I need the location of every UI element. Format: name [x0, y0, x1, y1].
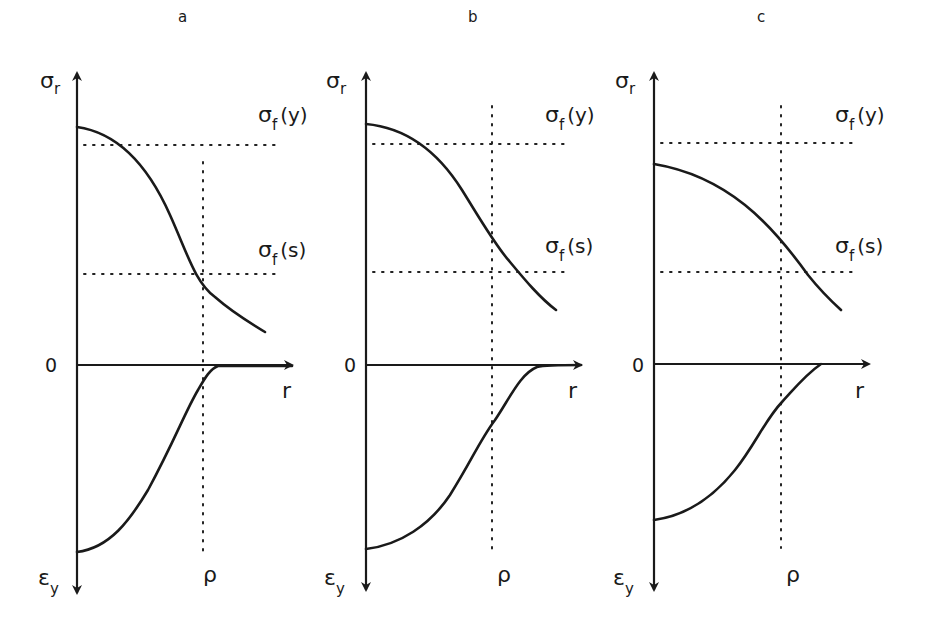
panel-a: a σr εy 0 r ρ σf(y) σf(s)	[38, 8, 308, 598]
sigma-r-label: σr	[40, 68, 61, 98]
sigma-r-curve	[77, 127, 265, 332]
panel-b: b σr εy 0 r ρ σf(y) σf(s)	[324, 8, 595, 598]
panel-letter: a	[178, 8, 187, 26]
rho-label: ρ	[203, 562, 217, 587]
panel-letter: c	[757, 8, 765, 26]
sigma-r-label: σr	[326, 68, 347, 98]
sigma-f-s-label: σf(s)	[258, 237, 306, 269]
r-axis-label: r	[282, 378, 292, 403]
origin-label: 0	[632, 354, 644, 376]
origin-label: 0	[344, 354, 356, 376]
sigma-f-s-label: σf(s)	[835, 233, 883, 265]
three-panel-stress-strain-diagram: a σr εy 0 r ρ σf(y) σf(s) b σr εy 0 r ρ …	[0, 0, 935, 618]
epsilon-y-label: εy	[324, 565, 345, 598]
rho-label: ρ	[786, 562, 800, 587]
r-axis-label: r	[855, 378, 865, 403]
panel-letter: b	[468, 8, 478, 26]
sigma-f-y-label: σf(y)	[258, 102, 308, 134]
sigma-f-y-label: σf(y)	[835, 102, 885, 134]
epsilon-y-curve	[654, 364, 821, 520]
epsilon-y-curve	[77, 366, 292, 552]
epsilon-y-label: εy	[38, 565, 59, 598]
sigma-f-s-label: σf(s)	[545, 233, 593, 265]
sigma-r-curve	[366, 124, 556, 310]
origin-label: 0	[45, 354, 57, 376]
r-axis-label: r	[568, 378, 578, 403]
rho-label: ρ	[497, 562, 511, 587]
sigma-r-curve	[654, 164, 841, 310]
epsilon-y-label: εy	[613, 565, 634, 598]
panel-c: c σr εy 0 r ρ σf(y) σf(s)	[613, 8, 885, 598]
sigma-r-label: σr	[615, 68, 636, 98]
sigma-f-y-label: σf(y)	[545, 102, 595, 134]
epsilon-y-curve	[366, 365, 581, 549]
